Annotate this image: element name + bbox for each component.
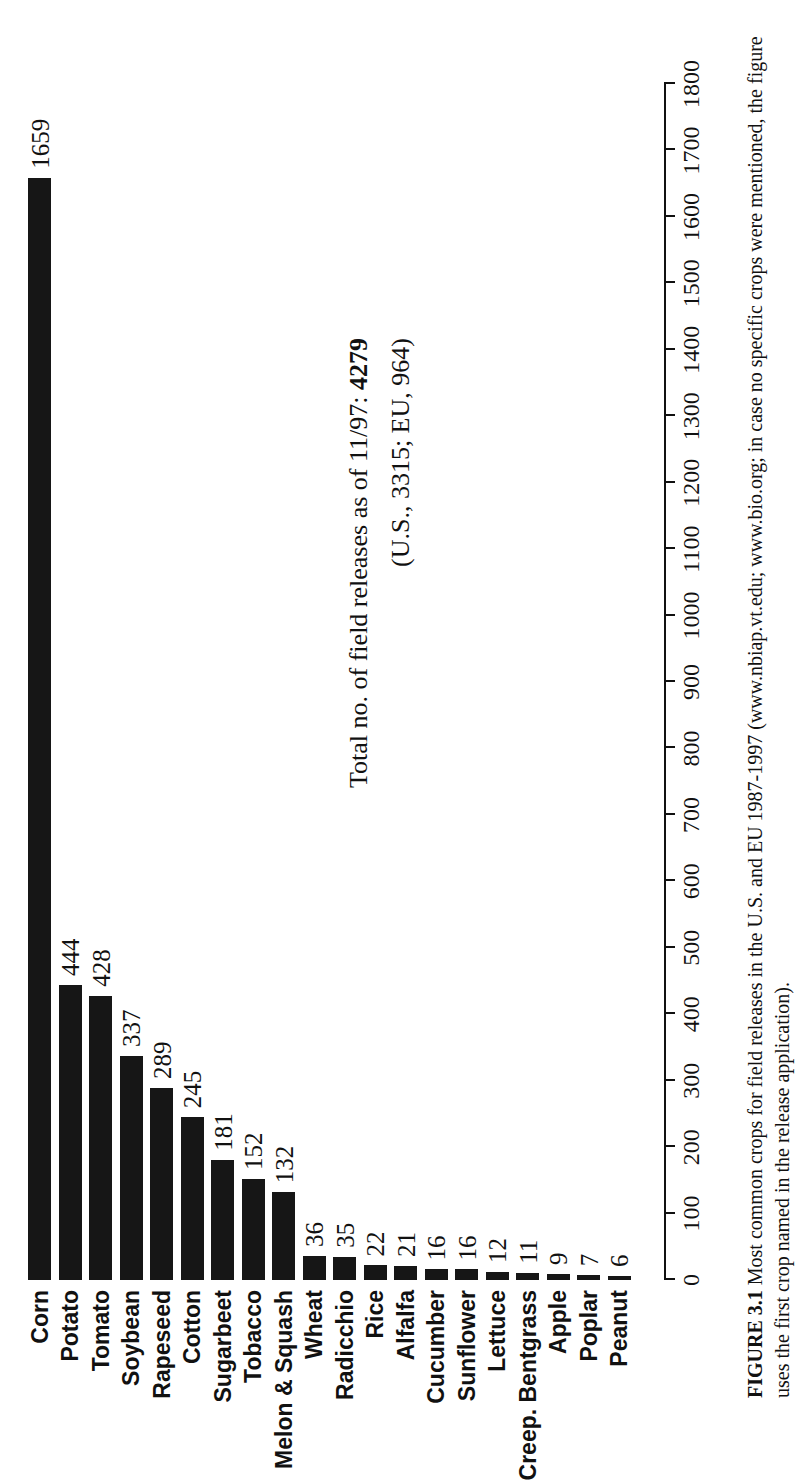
axis-tick-label: 800: [679, 730, 703, 766]
bar-row: Melon & Squash132: [272, 84, 295, 1280]
bar: [425, 1269, 448, 1280]
axis-tick: [664, 746, 675, 748]
bar-value-label: 11: [515, 1240, 540, 1264]
bar-value-label: 21: [393, 1232, 418, 1257]
axis-tick: [664, 1079, 675, 1081]
bar-value-label: 6: [607, 1255, 632, 1268]
bar: [181, 1117, 204, 1280]
annotation-total-value: 4279: [344, 338, 373, 390]
figure-number: FIGURE 3.1: [744, 1290, 766, 1398]
axis-tick: [664, 148, 675, 150]
bar-category-label: Apple: [547, 1290, 570, 1354]
axis-tick: [664, 547, 675, 549]
bar-value-label: 245: [180, 1071, 205, 1109]
bar-category-label: Rice: [364, 1290, 387, 1339]
bar-value-label: 12: [485, 1238, 510, 1263]
bar: [28, 178, 51, 1280]
bar-category-label: Cucumber: [425, 1290, 448, 1404]
bar-category-label: Sugarbeet: [211, 1290, 234, 1402]
bar-category-label: Tomato: [89, 1290, 112, 1371]
bar: [242, 1179, 265, 1280]
bar-category-label: Peanut: [608, 1290, 631, 1367]
bar: [455, 1269, 478, 1280]
bar-value-label: 428: [88, 949, 113, 987]
bar: [303, 1256, 326, 1280]
bar: [211, 1160, 234, 1280]
bar: [333, 1257, 356, 1280]
bar-category-label: Cotton: [181, 1290, 204, 1364]
total-releases-annotation: Total no. of field releases as of 11/97:…: [338, 338, 422, 788]
bar-category-label: Lettuce: [486, 1290, 509, 1372]
axis-tick: [664, 281, 675, 283]
axis-tick-label: 200: [679, 1129, 703, 1165]
axis-tick: [664, 946, 675, 948]
axis-tick-label: 300: [679, 1063, 703, 1099]
bar-row: Peanut6: [608, 84, 631, 1280]
value-axis: 0100200300400500600700800900100011001200…: [664, 84, 666, 1280]
axis-tick: [664, 1145, 675, 1147]
axis-tick-label: 1100: [679, 526, 703, 573]
figure-caption: FIGURE 3.1 Most common crops for field r…: [742, 0, 796, 1398]
bar-category-label: Creep. Bentgrass: [516, 1290, 539, 1480]
bar: [89, 996, 112, 1280]
bar: [394, 1266, 417, 1280]
bar-value-label: 36: [302, 1222, 327, 1247]
axis-tick: [664, 1012, 675, 1014]
axis-tick: [664, 879, 675, 881]
axis-tick-label: 900: [679, 664, 703, 700]
axis-tick: [664, 481, 675, 483]
bar-row: Wheat36: [303, 84, 326, 1280]
bar: [547, 1274, 570, 1280]
bar-value-label: 7: [576, 1254, 601, 1267]
bar-category-label: Potato: [59, 1290, 82, 1362]
axis-tick-label: 100: [679, 1196, 703, 1232]
axis-tick-label: 1700: [679, 126, 703, 174]
bar: [577, 1275, 600, 1280]
bar: [608, 1276, 631, 1280]
bar-value-label: 16: [424, 1235, 449, 1260]
bar-category-label: Soybean: [120, 1290, 143, 1386]
axis-tick: [664, 614, 675, 616]
bar-row: Apple9: [547, 84, 570, 1280]
figure-caption-text: Most common crops for field releases in …: [744, 36, 793, 1398]
axis-tick: [664, 82, 675, 84]
bar-row: Sugarbeet181: [211, 84, 234, 1280]
bar-row: Tomato428: [89, 84, 112, 1280]
bar: [486, 1272, 509, 1280]
axis-tick: [664, 215, 675, 217]
axis-tick-label: 500: [679, 930, 703, 966]
bar-row: Tobacco152: [242, 84, 265, 1280]
axis-tick-label: 600: [679, 863, 703, 899]
bar-category-label: Wheat: [303, 1290, 326, 1359]
bar-value-label: 132: [271, 1146, 296, 1184]
bar-category-label: Tobacco: [242, 1290, 265, 1383]
bar-row: Potato444: [59, 84, 82, 1280]
bar-value-label: 22: [363, 1231, 388, 1256]
axis-tick-label: 400: [679, 996, 703, 1032]
bar-value-label: 1659: [27, 119, 52, 169]
annotation-breakdown: (U.S., 3315; EU, 964): [380, 338, 422, 788]
bar: [120, 1056, 143, 1280]
bar-value-label: 289: [149, 1041, 174, 1079]
bar-chart-plot-area: Corn1659Potato444Tomato428Soybean337Rape…: [28, 84, 638, 1280]
bar: [516, 1273, 539, 1280]
bar-category-label: Poplar: [577, 1290, 600, 1362]
bar: [364, 1265, 387, 1280]
bar-row: Creep. Bentgrass11: [516, 84, 539, 1280]
axis-tick: [664, 414, 675, 416]
bar-category-label: Rapeseed: [150, 1290, 173, 1399]
axis-tick-label: 1500: [679, 259, 703, 307]
axis-tick: [664, 813, 675, 815]
bar-value-label: 35: [332, 1223, 357, 1248]
annotation-label: Total no. of field releases as of 11/97:: [344, 397, 373, 788]
bar-row: Poplar7: [577, 84, 600, 1280]
bar: [272, 1192, 295, 1280]
axis-tick-label: 0: [679, 1274, 703, 1286]
bar-row: Cotton245: [181, 84, 204, 1280]
bar-row: Rapeseed289: [150, 84, 173, 1280]
bar-category-label: Radicchio: [333, 1290, 356, 1400]
bar-row: Corn1659: [28, 84, 51, 1280]
bar-value-label: 9: [546, 1253, 571, 1266]
bar-value-label: 16: [454, 1235, 479, 1260]
